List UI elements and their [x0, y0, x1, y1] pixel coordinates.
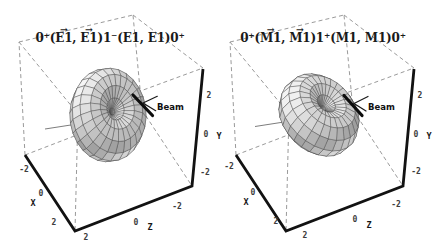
axis-label-z: Z: [366, 220, 371, 230]
x-tick-2: 2: [274, 217, 279, 226]
axis-label-x: X: [243, 197, 248, 207]
y-tick-neg2: -2: [411, 167, 421, 176]
subplot-right: Beam -2 0 2 X 2 0 -2 Z 2 0 -2 Y: [224, 15, 432, 240]
beam-label: Beam: [157, 102, 184, 112]
y-tick-0: 0: [414, 130, 419, 139]
x-tick-0: 0: [39, 189, 44, 198]
title-part: 0⁺(: [35, 31, 55, 45]
z-tick-neg2: -2: [391, 200, 401, 209]
title-part: 0⁺(: [240, 31, 260, 45]
two-photon-angular-distribution-figure: Beam -2 0 2 X 2 0 -2 Z 2 0 -2 Y: [0, 0, 442, 246]
vector-arrow-icon: →: [289, 25, 310, 34]
mesh-cell: [337, 128, 345, 141]
plot-title-right: 0⁺(→M1, →M1)1⁺(M1, M1)0⁺: [240, 31, 406, 45]
title-part: )1⁺(M1, M1)0⁺: [310, 31, 405, 45]
x-tick-neg2: -2: [19, 165, 29, 174]
z-tick-2: 2: [84, 233, 89, 242]
subplot-left: Beam -2 0 2 X 2 0 -2 Z 2 0 -2 Y: [19, 15, 222, 242]
vector-notation: →E1: [55, 31, 72, 45]
y-tick-0: 0: [204, 130, 209, 139]
x-tick-0: 0: [251, 188, 256, 197]
axis-label-y: Y: [426, 131, 432, 141]
beam-axis-line: [45, 125, 74, 130]
axis-label-y: Y: [216, 131, 222, 141]
angular-distribution-surface: [70, 68, 146, 161]
y-tick-2: 2: [207, 91, 212, 100]
x-tick-2: 2: [52, 218, 57, 227]
title-part: )1⁻(E1, E1)0⁺: [97, 31, 184, 45]
y-tick-2: 2: [418, 91, 423, 100]
angular-distribution-surface: [279, 74, 359, 156]
y-tick-neg2: -2: [200, 168, 210, 177]
z-tick-neg2: -2: [172, 202, 182, 211]
axis-label-x: X: [30, 198, 35, 208]
vector-notation: →E1: [80, 31, 97, 45]
axis-label-z: Z: [147, 222, 152, 232]
vector-arrow-icon: →: [260, 25, 281, 34]
plot-title-left: 0⁺(→E1, →E1)1⁻(E1, E1)0⁺: [35, 31, 184, 45]
vector-arrow-icon: →: [55, 25, 72, 34]
z-tick-0: 0: [353, 215, 358, 224]
z-tick-2: 2: [303, 231, 308, 240]
vector-arrow-icon: →: [80, 25, 97, 34]
vector-notation: →M1: [289, 31, 310, 45]
beam-label: Beam: [368, 102, 395, 112]
beam-axis-line: [255, 122, 284, 127]
z-tick-0: 0: [134, 218, 139, 227]
x-tick-neg2: -2: [224, 162, 234, 171]
vector-notation: →M1: [260, 31, 281, 45]
